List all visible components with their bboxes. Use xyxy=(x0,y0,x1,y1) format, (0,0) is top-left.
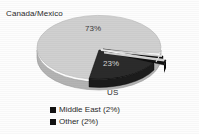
slice-value-us: 23% xyxy=(103,59,119,68)
slice-value-canada-mexico: 73% xyxy=(85,24,101,33)
chart-legend: Middle East (2%) Other (2%) xyxy=(50,104,120,127)
legend-item-middle-east: Middle East (2%) xyxy=(50,104,120,115)
pie-chart: Canada/Mexico 73% 23% US Middle East (2%… xyxy=(0,0,199,134)
legend-swatch-icon xyxy=(50,107,56,113)
legend-item-label: Other (2%) xyxy=(59,117,98,126)
legend-item-other: Other (2%) xyxy=(50,116,120,127)
legend-swatch-icon xyxy=(50,119,56,125)
slice-callout-us: US xyxy=(107,88,118,97)
slice-callout-canada-mexico: Canada/Mexico xyxy=(6,9,63,18)
legend-item-label: Middle East (2%) xyxy=(59,105,120,114)
